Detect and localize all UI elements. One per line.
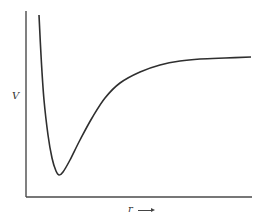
x-axis-label: r <box>128 203 133 214</box>
x-axis-arrow-icon <box>138 210 152 211</box>
chart-canvas <box>0 0 266 221</box>
y-axis-label: V <box>12 90 19 101</box>
potential-curve <box>39 15 251 175</box>
